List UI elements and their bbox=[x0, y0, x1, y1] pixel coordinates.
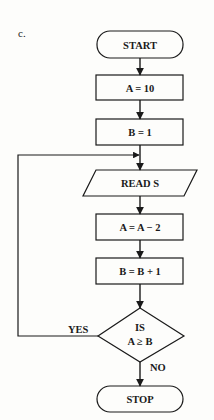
process-b-increment-label: B = B + 1 bbox=[119, 266, 161, 277]
process-b-increment: B = B + 1 bbox=[96, 258, 183, 284]
process-b-init: B = 1 bbox=[96, 119, 183, 145]
decision-line1: IS bbox=[135, 322, 145, 333]
figure-label: c. bbox=[18, 27, 26, 39]
start-terminal: START bbox=[97, 31, 183, 58]
process-a-init-label: A = 10 bbox=[126, 83, 155, 94]
input-read-s: READ S bbox=[83, 170, 197, 196]
stop-terminal: STOP bbox=[97, 386, 183, 412]
decision-a-ge-b: IS A ≥ B bbox=[98, 308, 184, 362]
decision-line2: A ≥ B bbox=[127, 336, 152, 347]
start-label: START bbox=[123, 40, 157, 51]
yes-label: YES bbox=[68, 324, 89, 335]
no-label: NO bbox=[150, 362, 166, 373]
flowchart-diagram: c. START A = 10 B = 1 READ S A = A − 2 B… bbox=[0, 0, 214, 420]
stop-label: STOP bbox=[126, 394, 154, 405]
input-read-s-label: READ S bbox=[121, 178, 159, 189]
process-a-init: A = 10 bbox=[96, 75, 183, 100]
process-a-decrement-label: A = A − 2 bbox=[119, 222, 160, 233]
process-b-init-label: B = 1 bbox=[128, 127, 152, 138]
process-a-decrement: A = A − 2 bbox=[96, 214, 183, 240]
